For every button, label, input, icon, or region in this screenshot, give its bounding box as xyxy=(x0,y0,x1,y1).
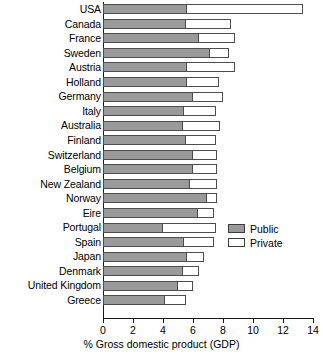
bar-public-canada xyxy=(103,19,186,29)
category-label-australia: Australia xyxy=(61,118,101,133)
category-label-austria: Austria xyxy=(69,60,101,75)
bar-public-germany xyxy=(103,92,193,102)
x-tick xyxy=(283,319,284,323)
bar-public-belgium xyxy=(103,164,193,174)
bar-public-united-kingdom xyxy=(103,281,178,291)
x-tick-label: 6 xyxy=(190,324,196,336)
category-label-portugal: Portugal xyxy=(63,220,101,235)
category-label-usa: USA xyxy=(80,2,101,17)
category-label-eire: Eire xyxy=(83,206,101,221)
bar-public-usa xyxy=(103,4,187,14)
bar-private-portugal xyxy=(162,223,216,233)
bar-public-italy xyxy=(103,106,184,116)
bar-public-australia xyxy=(103,121,183,131)
category-label-denmark: Denmark xyxy=(59,264,101,279)
bar-public-japan xyxy=(103,252,187,262)
gdp-health-expenditure-chart: USACanadaFranceSwedenAustriaHollandGerma… xyxy=(0,0,323,354)
bar-private-spain xyxy=(183,237,214,247)
x-tick-label: 2 xyxy=(130,324,136,336)
x-tick xyxy=(223,319,224,323)
bar-private-australia xyxy=(182,121,221,131)
bar-public-sweden xyxy=(103,48,210,58)
bar-public-denmark xyxy=(103,266,183,276)
category-label-canada: Canada xyxy=(65,17,101,32)
x-tick xyxy=(133,319,134,323)
bar-private-france xyxy=(198,33,235,43)
bar-public-norway xyxy=(103,193,207,203)
bar-public-holland xyxy=(103,77,187,87)
bar-private-united-kingdom xyxy=(177,281,193,291)
category-label-sweden: Sweden xyxy=(64,46,101,61)
category-label-holland: Holland xyxy=(66,75,101,90)
x-axis-title: % Gross domestic product (GDP) xyxy=(0,338,323,350)
legend-label-private: Private xyxy=(250,237,283,249)
bar-public-greece xyxy=(103,295,165,305)
x-tick-label: 4 xyxy=(160,324,166,336)
category-label-finland: Finland xyxy=(67,133,101,148)
bar-private-switzerland xyxy=(192,150,217,160)
x-tick xyxy=(193,319,194,323)
bar-private-italy xyxy=(183,106,216,116)
bar-private-eire xyxy=(197,208,215,218)
bar-public-portugal xyxy=(103,223,163,233)
bar-public-switzerland xyxy=(103,150,193,160)
bar-private-austria xyxy=(186,62,235,72)
x-tick xyxy=(313,319,314,323)
chart-legend: Public Private xyxy=(228,221,283,249)
bar-private-holland xyxy=(186,77,219,87)
bar-public-spain xyxy=(103,237,184,247)
x-tick xyxy=(253,319,254,323)
legend-item-public: Public xyxy=(228,221,283,235)
bar-private-norway xyxy=(206,193,218,203)
category-label-norway: Norway xyxy=(66,191,101,206)
x-tick-label: 10 xyxy=(247,324,259,336)
bar-private-new-zealand xyxy=(189,179,217,189)
category-label-new-zealand: New Zealand xyxy=(40,177,101,192)
x-tick-label: 14 xyxy=(307,324,319,336)
category-label-spain: Spain xyxy=(75,235,101,250)
legend-swatch-private-icon xyxy=(228,238,245,247)
x-tick xyxy=(103,319,104,323)
bar-public-finland xyxy=(103,135,186,145)
category-label-switzerland: Switzerland xyxy=(48,148,101,163)
bar-public-france xyxy=(103,33,199,43)
category-label-france: France xyxy=(69,31,101,46)
legend-label-public: Public xyxy=(250,223,279,235)
bar-public-austria xyxy=(103,62,187,72)
bar-private-finland xyxy=(185,135,216,145)
x-tick-label: 0 xyxy=(100,324,106,336)
legend-item-private: Private xyxy=(228,235,283,249)
bar-public-eire xyxy=(103,208,198,218)
bar-private-germany xyxy=(192,92,223,102)
category-label-germany: Germany xyxy=(59,89,101,104)
x-tick-label: 12 xyxy=(277,324,289,336)
bar-private-sweden xyxy=(209,48,230,58)
bar-public-new-zealand xyxy=(103,179,190,189)
bar-private-usa xyxy=(186,4,303,14)
x-tick-label: 8 xyxy=(220,324,226,336)
category-label-united-kingdom: United Kingdom xyxy=(28,278,101,293)
legend-swatch-public-icon xyxy=(228,224,245,233)
category-label-greece: Greece xyxy=(67,293,101,308)
bar-private-canada xyxy=(185,19,231,29)
bar-private-greece xyxy=(164,295,186,305)
bar-private-japan xyxy=(186,252,204,262)
category-label-japan: Japan xyxy=(73,249,101,264)
bar-private-denmark xyxy=(182,266,200,276)
category-label-belgium: Belgium xyxy=(64,162,101,177)
x-tick xyxy=(163,319,164,323)
category-label-italy: Italy xyxy=(82,104,101,119)
bar-private-belgium xyxy=(192,164,217,174)
